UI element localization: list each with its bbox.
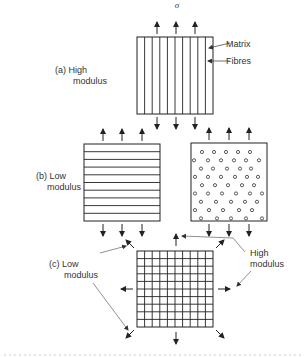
fibre-cross-section [193,209,196,212]
matrix-label: Matrix [226,39,251,49]
fibre-cross-section [214,200,217,203]
fibre-cross-section [244,217,247,220]
panel-b-longitudinal: (b) Low modulus [36,129,160,236]
fibre-cross-section [240,184,243,187]
fibre-cross-section [225,167,228,170]
fibre-cross-section [215,217,218,220]
fibre-cross-section [236,150,239,153]
composite-fibre-diagram: σ Matrix Fibres (a) High modulus (b) Low… [0,0,308,357]
arrow-diag-top-left [126,240,134,248]
load-arrows-bottom [157,117,195,129]
fibre-cross-section [250,209,253,212]
vertical-fibres [145,37,206,114]
fibre-cross-section [193,175,196,178]
fibre-cross-section [232,159,235,162]
fibre-cross-section [206,175,209,178]
panel-a: σ Matrix Fibres (a) High modulus [55,0,252,129]
fibre-cross-section [212,150,215,153]
fibre-cross-section [206,192,209,195]
panel-b-endon [191,128,267,236]
endon-fibre-specimen [191,143,267,221]
load-arrows-bottom [103,224,142,236]
fibre-cross-section [226,184,229,187]
fibre-cross-section [260,192,263,195]
fibre-cross-section [207,209,210,212]
fibre-cross-section [252,184,255,187]
fibres-label: Fibres [226,56,252,66]
fibre-cross-section [229,200,232,203]
panel-c-label: (c) Low [49,259,79,269]
fibre-cross-section [244,159,247,162]
load-arrows-bottom [209,224,249,236]
stress-symbol: σ [175,0,180,10]
panel-a-label-line2: modulus [73,76,108,86]
fibre-cross-section [211,167,214,170]
panel-b-label: (b) Low [36,171,67,181]
fibre-cross-section [200,150,203,153]
fibre-cross-section [200,184,203,187]
fibre-cross-section [192,159,195,162]
high-modulus-callout-top-b [182,236,233,238]
load-arrows-top [157,22,195,34]
fibre-cross-section [199,200,202,203]
panel-c: (c) Low modulus High modulus [49,234,285,344]
fibre-cross-sections [192,150,263,220]
low-modulus-callout-top [100,246,126,253]
fibre-cross-section [245,175,248,178]
fibre-cross-section [234,192,237,195]
fibre-cross-section [255,200,258,203]
fibre-cross-section [248,192,251,195]
fibre-cross-section [237,209,240,212]
load-arrows-top [103,129,142,141]
fibre-cross-section [220,192,223,195]
fibre-cross-section [224,150,227,153]
fibre-grid [137,251,213,327]
arrow-diag-top-right [216,240,224,248]
fibre-cross-section [229,217,232,220]
high-modulus-label-line2: modulus [250,259,285,269]
fibre-cross-section [219,175,222,178]
panel-a-label: (a) High [55,65,87,75]
arrow-diag-bottom-right [216,330,224,338]
high-modulus-label: High [250,248,269,258]
load-arrows-top [209,128,249,140]
fibre-cross-section [260,217,263,220]
fibre-cross-section [257,159,260,162]
fibre-cross-section [206,159,209,162]
fibre-cross-section [219,159,222,162]
fibre-cross-section [213,184,216,187]
fibre-cross-section [249,167,252,170]
fibre-cross-section [233,175,236,178]
arrow-diag-bottom-left [126,330,134,338]
high-modulus-callout-top-a [233,238,245,252]
fibre-cross-section [248,150,251,153]
fibre-cross-section [238,167,241,170]
panel-c-label-line2: modulus [64,270,99,280]
panel-b-label-line2: modulus [47,182,82,192]
fibre-cross-section [199,217,202,220]
horizontal-fibres [84,152,160,214]
fibre-cross-section [199,167,202,170]
low-modulus-callout-bottom [93,283,128,330]
high-modulus-callout-bottom [237,271,251,286]
fibre-cross-section [193,192,196,195]
fibre-cross-section [243,200,246,203]
fibre-cross-section [256,175,259,178]
fibre-cross-section [221,209,224,212]
